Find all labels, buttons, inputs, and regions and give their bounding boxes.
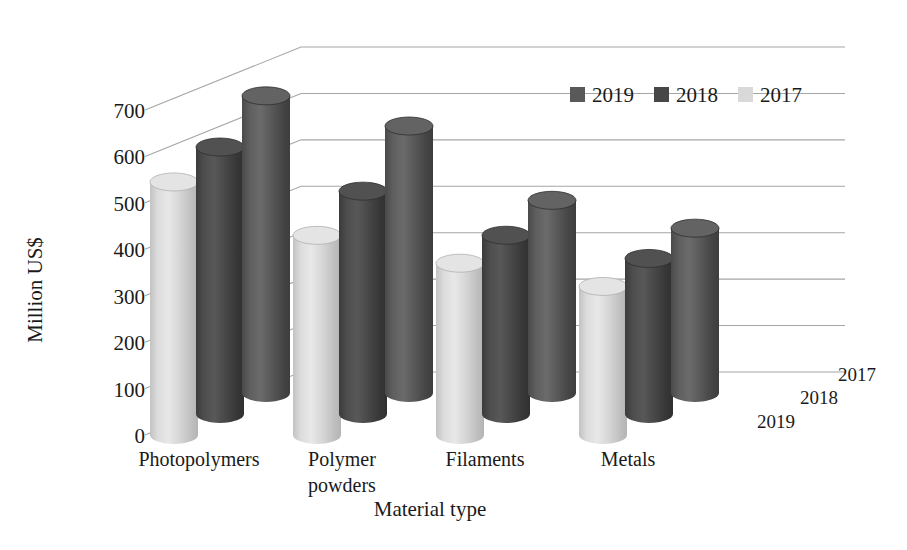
y-axis-tick-label: 700	[114, 99, 146, 123]
x-axis-category-labels: PhotopolymersPolymerpowdersFilamentsMeta…	[138, 448, 655, 497]
legend-swatch	[654, 87, 669, 102]
depth-axis-label: 2019	[757, 411, 795, 432]
y-axis-tick-labels: 0100200300400500600700	[114, 99, 146, 448]
cylinder-bar	[579, 277, 627, 444]
cylinder-bar	[625, 249, 673, 423]
chart-container: 0100200300400500600700 PhotopolymersPoly…	[0, 0, 907, 550]
cylinder-bar	[150, 173, 198, 444]
three-d-cylinder-chart: 0100200300400500600700 PhotopolymersPoly…	[0, 0, 907, 550]
cylinder-bar	[482, 226, 530, 423]
cylinder-bar	[242, 87, 290, 402]
legend-label: 2019	[592, 83, 634, 107]
x-axis-category-label: Photopolymers	[138, 448, 259, 471]
x-axis-title: Material type	[374, 497, 487, 521]
y-axis-tick-label: 300	[114, 285, 146, 309]
y-axis-tick-label: 0	[135, 424, 146, 448]
y-axis-title: Million US$	[23, 237, 47, 343]
depth-axis-labels: 201720182019	[757, 364, 876, 432]
cylinder-bar	[196, 138, 244, 423]
legend-label: 2018	[676, 83, 718, 107]
cylinder-bar	[671, 219, 719, 402]
y-axis-tick-label: 500	[114, 192, 146, 216]
legend-swatch	[570, 87, 585, 102]
x-axis-category-label: Filaments	[446, 448, 525, 470]
depth-axis-label: 2017	[838, 364, 876, 385]
y-axis-tick-label: 600	[114, 145, 146, 169]
cylinder-bar	[436, 254, 484, 444]
y-axis-tick-label: 200	[114, 331, 146, 355]
y-axis-tick-label: 100	[114, 378, 146, 402]
x-axis-category-label: Metals	[601, 448, 656, 470]
depth-axis-label: 2018	[800, 387, 838, 408]
legend-swatch	[738, 87, 753, 102]
cylinder-bar	[385, 117, 433, 402]
cylinder-bar	[339, 182, 387, 423]
x-axis-category-label: Polymerpowders	[308, 448, 376, 497]
bars-layer	[150, 87, 719, 444]
chart-legend: 201920182017	[570, 83, 802, 107]
cylinder-bar	[293, 226, 341, 444]
cylinder-bar	[528, 191, 576, 402]
legend-label: 2017	[760, 83, 802, 107]
y-axis-tick-label: 400	[114, 238, 146, 262]
